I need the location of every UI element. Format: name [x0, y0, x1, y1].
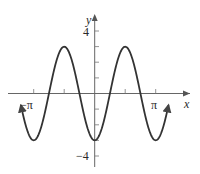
x-tick-label-left: −π	[20, 98, 33, 112]
x-tick-label-right: π	[151, 98, 157, 112]
x-axis-arrow-icon	[183, 91, 190, 97]
y-tick-label-bottom: −4	[76, 149, 89, 163]
y-tick-label-top: 4	[83, 25, 89, 39]
chart: y x 4 −4 −π π	[0, 0, 200, 174]
x-axis-label: x	[183, 97, 190, 111]
x-axis	[8, 89, 190, 97]
y-axis	[92, 14, 99, 167]
y-axis-arrow-icon	[92, 14, 98, 21]
